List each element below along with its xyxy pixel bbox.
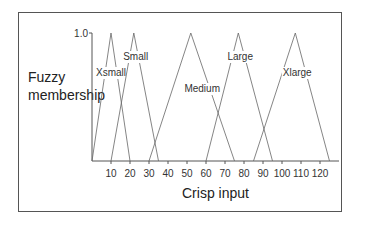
x-tick-label: 50 — [181, 168, 193, 179]
x-tick-label: 110 — [293, 168, 309, 179]
x-tick-label: 30 — [143, 168, 155, 179]
x-tick-label: 40 — [162, 168, 174, 179]
membership-medium — [149, 33, 235, 161]
set-label-small: Small — [123, 51, 148, 62]
x-tick-label: 80 — [238, 168, 250, 179]
x-tick-label: 90 — [257, 168, 269, 179]
set-label-large: Large — [227, 51, 253, 62]
fuzzy-chart: 1.0102030405060708090100110120XsmallSmal… — [0, 0, 374, 232]
y-tick-label: 1.0 — [74, 28, 88, 39]
set-label-medium: Medium — [184, 83, 220, 94]
x-tick-label: 100 — [274, 168, 291, 179]
set-label-xsmall: Xsmall — [96, 67, 126, 78]
x-tick-label: 70 — [219, 168, 231, 179]
x-tick-label: 120 — [312, 168, 329, 179]
set-label-xlarge: Xlarge — [283, 67, 312, 78]
x-tick-label: 20 — [124, 168, 136, 179]
membership-xlarge — [254, 33, 330, 161]
x-tick-label: 60 — [200, 168, 212, 179]
x-tick-label: 10 — [105, 168, 117, 179]
